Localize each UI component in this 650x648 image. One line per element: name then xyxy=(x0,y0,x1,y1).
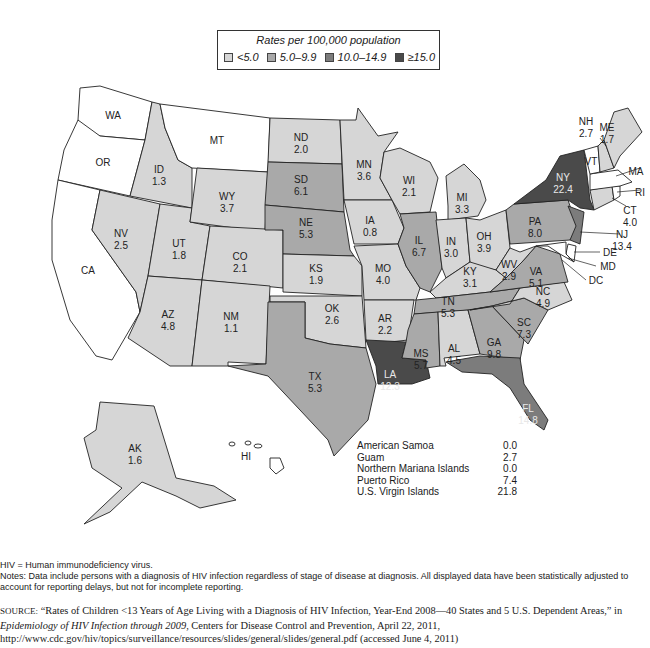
svg-text:MI: MI xyxy=(456,192,467,203)
svg-text:OR: OR xyxy=(96,157,111,168)
us-map: WA OR CA MT ID 1.3 NV 2.5 UT 1.8 WY 3.7 … xyxy=(0,0,650,560)
svg-text:NH: NH xyxy=(579,116,593,127)
territory-row: American Samoa 0.0 xyxy=(357,440,517,452)
svg-text:NY: NY xyxy=(556,172,570,183)
svg-text:MD: MD xyxy=(600,261,616,272)
svg-text:TX: TX xyxy=(309,371,322,382)
abbreviation-note: HIV = Human immunodeficiency virus. xyxy=(0,560,650,571)
svg-text:NJ: NJ xyxy=(616,229,628,240)
territory-row: U.S. Virgin Islands 21.8 xyxy=(357,486,517,498)
svg-text:KS: KS xyxy=(309,263,323,274)
svg-text:WI: WI xyxy=(403,175,415,186)
territory-value: 21.8 xyxy=(498,486,517,498)
svg-text:1.8: 1.8 xyxy=(172,250,186,261)
territory-value: 0.0 xyxy=(503,440,517,452)
svg-text:WA: WA xyxy=(105,110,121,121)
svg-text:KY: KY xyxy=(463,266,477,277)
svg-text:3.6: 3.6 xyxy=(357,171,371,182)
svg-text:MT: MT xyxy=(210,135,224,146)
svg-text:IL: IL xyxy=(415,235,424,246)
svg-text:4.0: 4.0 xyxy=(623,217,637,228)
svg-text:6.7: 6.7 xyxy=(412,247,426,258)
notes: HIV = Human immunodeficiency virus. Note… xyxy=(0,560,650,593)
territory-name: American Samoa xyxy=(357,440,434,452)
svg-text:SD: SD xyxy=(294,174,308,185)
source-prefix: SOURCE: xyxy=(0,606,38,616)
svg-text:1.1: 1.1 xyxy=(224,323,238,334)
svg-text:LA: LA xyxy=(384,369,397,380)
territory-name: U.S. Virgin Islands xyxy=(357,486,439,498)
svg-text:ID: ID xyxy=(154,164,164,175)
svg-text:5.3: 5.3 xyxy=(308,383,322,394)
svg-text:GA: GA xyxy=(487,337,502,348)
territory-name: Puerto Rico xyxy=(357,475,409,487)
source-publication: Epidemiology of HIV Infection through 20… xyxy=(0,620,186,631)
svg-text:2.2: 2.2 xyxy=(378,325,392,336)
svg-text:1.6: 1.6 xyxy=(128,455,142,466)
svg-text:5.3: 5.3 xyxy=(299,229,313,240)
territory-row: Puerto Rico 7.4 xyxy=(357,475,517,487)
territory-row: Northern Mariana Islands 0.0 xyxy=(357,463,517,475)
svg-text:DC: DC xyxy=(589,275,603,286)
svg-text:TN: TN xyxy=(441,296,454,307)
svg-text:2.7: 2.7 xyxy=(579,128,593,139)
territories-table: American Samoa 0.0 Guam 2.7 Northern Mar… xyxy=(357,440,517,498)
territory-value: 7.4 xyxy=(503,475,517,487)
svg-text:UT: UT xyxy=(172,238,185,249)
svg-text:22.4: 22.4 xyxy=(553,184,573,195)
svg-text:VA: VA xyxy=(530,266,543,277)
svg-text:9.8: 9.8 xyxy=(487,349,501,360)
svg-text:2.1: 2.1 xyxy=(402,187,416,198)
svg-text:5.1: 5.1 xyxy=(529,278,543,289)
territory-name: Guam xyxy=(357,452,384,464)
state-NY xyxy=(514,150,594,210)
svg-text:OH: OH xyxy=(477,231,492,242)
svg-text:6.1: 6.1 xyxy=(294,186,308,197)
svg-text:2.6: 2.6 xyxy=(325,315,339,326)
svg-text:5.3: 5.3 xyxy=(441,308,455,319)
svg-text:12.3: 12.3 xyxy=(380,381,400,392)
svg-text:2.9: 2.9 xyxy=(502,271,516,282)
state-HI xyxy=(229,441,284,474)
svg-text:5.7: 5.7 xyxy=(414,360,428,371)
svg-text:OK: OK xyxy=(325,303,340,314)
svg-text:8.0: 8.0 xyxy=(528,228,542,239)
notes-text: Notes: Data include persons with a diagn… xyxy=(0,571,650,593)
svg-text:3.7: 3.7 xyxy=(220,203,234,214)
svg-text:AL: AL xyxy=(448,343,461,354)
territory-row: Guam 2.7 xyxy=(357,452,517,464)
svg-text:WY: WY xyxy=(219,191,235,202)
svg-text:RI: RI xyxy=(635,187,645,198)
svg-text:MA: MA xyxy=(629,166,644,177)
svg-text:1.3: 1.3 xyxy=(152,176,166,187)
source-quote: “Rates of Children <13 Years of Age Livi… xyxy=(41,605,622,616)
svg-text:FL: FL xyxy=(522,403,534,414)
svg-text:IN: IN xyxy=(446,236,456,247)
svg-text:1.9: 1.9 xyxy=(309,275,323,286)
svg-text:PA: PA xyxy=(529,216,542,227)
svg-text:3.0: 3.0 xyxy=(444,248,458,259)
svg-text:4.5: 4.5 xyxy=(447,355,461,366)
svg-text:3.3: 3.3 xyxy=(455,204,469,215)
svg-text:3.9: 3.9 xyxy=(477,243,491,254)
svg-text:AZ: AZ xyxy=(162,309,175,320)
svg-text:HI: HI xyxy=(241,451,251,462)
svg-text:VT: VT xyxy=(585,156,598,167)
svg-text:2.1: 2.1 xyxy=(233,263,247,274)
svg-text:3.1: 3.1 xyxy=(463,278,477,289)
territory-name: Northern Mariana Islands xyxy=(357,463,469,475)
svg-text:IA: IA xyxy=(365,215,375,226)
state-PA xyxy=(506,200,578,244)
svg-text:DE: DE xyxy=(603,247,617,258)
svg-text:NM: NM xyxy=(223,311,239,322)
svg-text:AK: AK xyxy=(128,443,142,454)
svg-text:MS: MS xyxy=(414,348,429,359)
svg-text:NV: NV xyxy=(114,228,128,239)
svg-text:7.3: 7.3 xyxy=(517,329,531,340)
svg-text:14.8: 14.8 xyxy=(518,415,538,426)
svg-text:CT: CT xyxy=(623,205,636,216)
source-citation: SOURCE: “Rates of Children <13 Years of … xyxy=(0,604,650,646)
svg-text:MN: MN xyxy=(356,159,372,170)
svg-text:2.0: 2.0 xyxy=(294,144,308,155)
territory-value: 2.7 xyxy=(503,452,517,464)
